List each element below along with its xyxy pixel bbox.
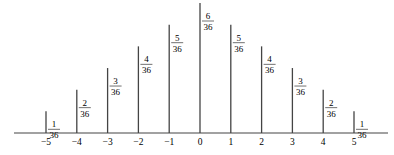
- svg-text:36: 36: [358, 130, 368, 140]
- svg-text:3: 3: [298, 76, 303, 86]
- x-tick-label: −1: [164, 137, 174, 147]
- fraction-label: 236: [79, 98, 91, 119]
- svg-text:2: 2: [83, 98, 88, 108]
- svg-text:36: 36: [327, 109, 337, 119]
- fraction-label: 136: [356, 119, 368, 140]
- fraction-label: 336: [110, 76, 122, 97]
- svg-text:36: 36: [296, 87, 306, 97]
- x-tick-label: 5: [352, 137, 357, 147]
- svg-text:4: 4: [267, 54, 272, 64]
- probability-spike-chart: 136236336436536636536436336236136 −5−4−3…: [0, 0, 394, 155]
- fraction-label: 336: [294, 76, 306, 97]
- x-tick-label: −4: [72, 137, 82, 147]
- x-tick-label: −2: [133, 137, 143, 147]
- svg-text:36: 36: [234, 44, 244, 54]
- svg-text:6: 6: [206, 11, 211, 21]
- svg-text:36: 36: [80, 109, 90, 119]
- fraction-label: 236: [325, 98, 337, 119]
- svg-text:5: 5: [237, 33, 242, 43]
- svg-text:36: 36: [204, 22, 214, 32]
- fraction-label: 536: [171, 33, 183, 54]
- svg-text:4: 4: [144, 54, 149, 64]
- svg-text:1: 1: [360, 119, 365, 129]
- bars: 136236336436536636536436336236136: [46, 3, 368, 140]
- svg-text:3: 3: [113, 76, 118, 86]
- x-tick-label: 4: [321, 137, 326, 147]
- svg-text:2: 2: [329, 98, 334, 108]
- x-tick-label: 0: [198, 137, 203, 147]
- fraction-label: 436: [264, 54, 276, 75]
- fraction-label: 536: [233, 33, 245, 54]
- fraction-label: 436: [140, 54, 152, 75]
- x-tick-label: 1: [228, 137, 233, 147]
- x-tick-labels: −5−4−3−2−1012345: [41, 137, 357, 147]
- fraction-label: 636: [202, 11, 214, 32]
- svg-text:36: 36: [142, 65, 152, 75]
- svg-text:5: 5: [175, 33, 180, 43]
- x-tick-label: 2: [259, 137, 264, 147]
- svg-text:36: 36: [173, 44, 183, 54]
- x-tick-label: 3: [290, 137, 295, 147]
- svg-text:36: 36: [111, 87, 121, 97]
- svg-text:1: 1: [52, 119, 57, 129]
- svg-text:36: 36: [265, 65, 275, 75]
- x-tick-label: −3: [103, 137, 113, 147]
- x-tick-label: −5: [41, 137, 51, 147]
